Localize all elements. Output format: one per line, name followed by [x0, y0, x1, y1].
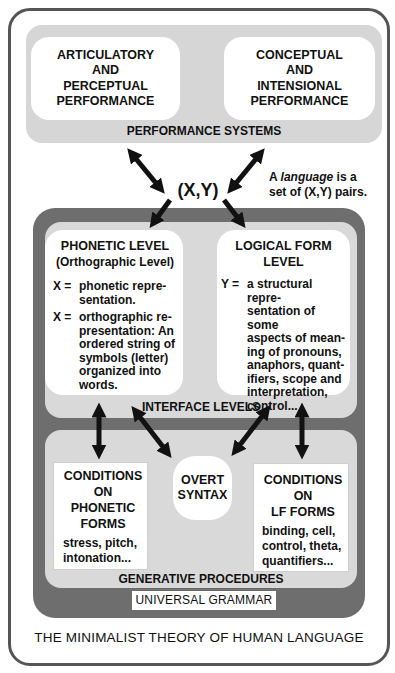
arrow-conceptual-xy	[232, 154, 260, 188]
arrow-articulatory-xy	[132, 154, 160, 188]
arrow-phonetic-overt-syntax	[136, 412, 167, 452]
arrow-xy-lf	[224, 200, 241, 222]
arrow-xy-phonetic	[154, 200, 170, 222]
arrows-layer	[0, 0, 395, 673]
arrow-lf-overt-syntax	[236, 411, 266, 450]
